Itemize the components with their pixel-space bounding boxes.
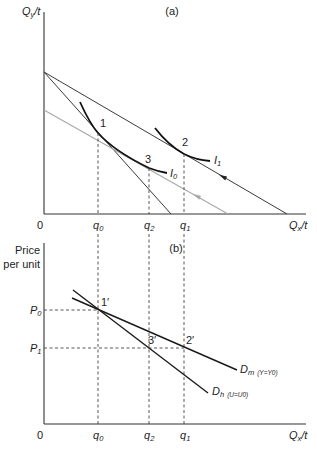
demand-label-condition: (U=U0) (227, 391, 248, 399)
demand-label-base: D (240, 363, 248, 375)
demand-label-Dh: Dh(U=U0) (212, 385, 248, 399)
tick-q1-b: q1 (180, 429, 190, 443)
point-3-label: 3 (145, 153, 151, 165)
demand-label-sub: h (220, 390, 224, 399)
tick-q2-b: q2 (144, 429, 155, 443)
point-3prime-label: 3′ (148, 334, 156, 346)
price-label-P0: P0 (30, 304, 42, 318)
x-axis-label-b: Qx/t (289, 429, 308, 443)
x-axis-label-rest: /t (300, 219, 308, 231)
tick-q0-b: q0 (93, 429, 104, 443)
price-label-sub: 1 (37, 347, 41, 356)
origin-label-a: 0 (37, 219, 43, 231)
tick-sub: 2 (149, 224, 155, 233)
y-axis-label-rest: /t (33, 5, 41, 17)
y-axis-label-a: Qy/t (22, 5, 41, 19)
point-1prime-label: 1′ (101, 296, 109, 308)
panel-b: (b) Price per unit P0 P1 1′ 2′ 3′ Dm(Y=Y… (3, 234, 308, 443)
origin-label-b: 0 (37, 429, 43, 441)
tick-q0-a: q0 (93, 219, 104, 233)
demand-label-Dm: Dm(Y=Y0) (240, 363, 278, 377)
tick-sub: 0 (99, 224, 104, 233)
curve-label-I0: I0 (170, 167, 178, 181)
curve-label-I1: I1 (214, 154, 221, 168)
panel-a: (a) Qy/t 1 2 3 I1 I0 0 q0 q2 q1 Qx/t (22, 5, 308, 233)
price-label-P1: P1 (30, 342, 42, 356)
demand-label-condition: (Y=Y0) (257, 369, 277, 377)
tick-sub: 0 (99, 434, 104, 443)
budget-line-new (44, 72, 287, 214)
panel-a-title: (a) (165, 5, 178, 17)
point-2prime-label: 2′ (186, 334, 194, 346)
demand-label-base: D (212, 385, 220, 397)
panel-b-title: (b) (169, 242, 182, 254)
curve-label-sub: 0 (173, 172, 178, 181)
income-substitution-diagram: (a) Qy/t 1 2 3 I1 I0 0 q0 q2 q1 Qx/t ( (0, 0, 317, 449)
tick-q2-a: q2 (144, 219, 155, 233)
tick-q1-a: q1 (180, 219, 190, 233)
demand-label-sub: m (248, 368, 254, 377)
tick-sub: 2 (149, 434, 155, 443)
price-label-sub: 0 (37, 309, 42, 318)
y-axis-label-b-line2: per unit (3, 258, 40, 270)
x-axis-label-a: Qx/t (289, 219, 308, 233)
curve-label-sub: 1 (217, 159, 221, 168)
point-2-label: 2 (182, 136, 188, 148)
y-axis-label-b-line1: Price (15, 244, 40, 256)
tick-sub: 1 (186, 224, 190, 233)
point-1-label: 1 (100, 117, 106, 129)
tick-sub: 1 (186, 434, 190, 443)
x-axis-label-rest: /t (300, 429, 308, 441)
arrow-up-left-icon (219, 175, 227, 181)
arrow-up-left-gray-icon (193, 194, 201, 200)
